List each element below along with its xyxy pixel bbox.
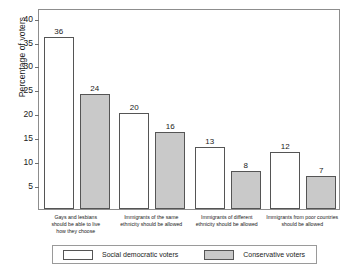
legend-swatch-gray [204,250,234,260]
bar-4-series-1: 12 [270,152,300,209]
bar-value-label: 36 [54,27,63,36]
x-category-label-4: Immigrants from poor countries should be… [265,214,341,228]
y-tick-mark [35,115,39,116]
y-tick-mark [35,44,39,45]
x-category-label-2: Immigrants of the same ethnicity should … [114,214,190,228]
bar-value-label: 13 [205,137,214,146]
legend-item-conservative-voters: Conservative voters [204,250,305,260]
bar-3-series-1: 13 [195,147,225,209]
y-tick-label: 40 [24,14,33,24]
y-tick-label: 20 [24,109,33,119]
y-tick-mark [35,67,39,68]
y-tick-label: 25 [24,85,33,95]
y-tick-label: 30 [24,61,33,71]
chart-legend: Social democratic voters Conservative vo… [52,245,317,264]
bar-value-label: 7 [319,166,323,175]
bar-4-series-2: 7 [306,176,336,210]
y-tick-label: 35 [24,38,33,48]
y-tick-label: 15 [24,133,33,143]
y-tick-mark [35,139,39,140]
bar-value-label: 8 [244,161,248,170]
bar-value-label: 12 [281,142,290,151]
bar-3-series-2: 8 [231,171,261,209]
x-category-label-1: Gays and lesbians should be able to live… [38,214,114,236]
bar-1-series-1: 36 [44,37,74,209]
legend-item-social-democratic-voters: Social democratic voters [63,250,178,260]
y-tick-mark [35,91,39,92]
bar-1-series-2: 24 [80,94,110,209]
x-category-label-3: Immigrants of different ethnicity should… [189,214,265,228]
y-tick-mark [35,163,39,164]
y-tick-label: 5 [28,181,33,191]
legend-label: Social democratic voters [102,251,178,258]
bar-value-label: 20 [130,103,139,112]
y-tick-mark [35,187,39,188]
y-tick-label: 10 [24,157,33,167]
legend-swatch-white [63,250,93,260]
bar-chart: Percentage of voters 510152025303540 362… [0,0,358,273]
bar-value-label: 24 [90,84,99,93]
bar-2-series-2: 16 [155,132,185,209]
plot-area: 510152025303540 36242016138127 [38,9,340,210]
y-tick-mark [35,20,39,21]
bar-2-series-1: 20 [119,113,149,209]
legend-label: Conservative voters [243,251,305,258]
bar-value-label: 16 [166,122,175,131]
